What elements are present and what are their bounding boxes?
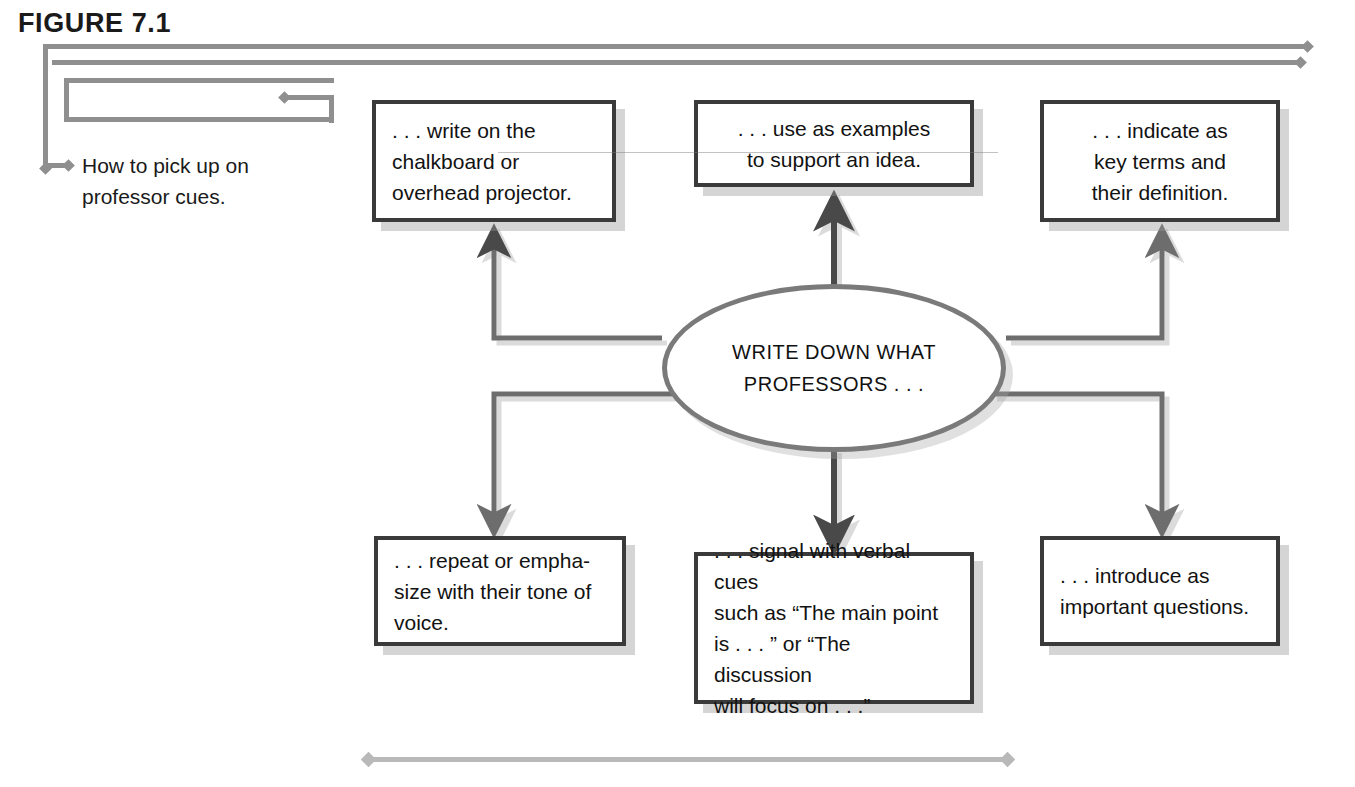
- figure-page: FIGURE 7.1 How to pick up on professor c…: [0, 0, 1355, 787]
- hub-line-1: WRITE DOWN WHAT: [732, 341, 936, 363]
- scan-artifact-line: [498, 152, 998, 153]
- node-tone-line-1: . . . repeat or empha-: [394, 549, 590, 572]
- bottom-rule: [368, 757, 1008, 762]
- node-examples-text: . . . use as examples to support an idea…: [698, 113, 970, 175]
- connector-hub-to-keyterms: [1006, 232, 1162, 338]
- connector-hub-to-questions: [992, 394, 1162, 530]
- node-verbalcues: . . . signal with verbal cues such as “T…: [694, 552, 974, 704]
- node-examples-line-1: . . . use as examples: [738, 117, 931, 140]
- node-tone-text: . . . repeat or empha- size with their t…: [378, 545, 622, 638]
- node-keyterms-line-2: key terms and: [1094, 150, 1226, 173]
- node-verbalcues-line-3: is . . . ” or “The discussion: [714, 632, 851, 686]
- node-questions-text: . . . introduce as important questions.: [1044, 560, 1276, 622]
- node-chalkboard-text: . . . write on the chalkboard or overhea…: [376, 115, 612, 208]
- node-examples: . . . use as examples to support an idea…: [694, 100, 974, 187]
- connector-hub-to-chalkboard: [494, 232, 662, 338]
- node-tone: . . . repeat or empha- size with their t…: [374, 536, 626, 646]
- connector-hub-to-tone: [494, 394, 680, 530]
- node-keyterms-text: . . . indicate as key terms and their de…: [1044, 115, 1276, 208]
- node-verbalcues-line-4: will focus on . . .”: [714, 694, 870, 717]
- node-questions: . . . introduce as important questions.: [1040, 536, 1280, 646]
- node-tone-line-3: voice.: [394, 611, 449, 634]
- hub-text: WRITE DOWN WHAT PROFESSORS . . .: [732, 336, 936, 400]
- hub-ellipse: WRITE DOWN WHAT PROFESSORS . . .: [662, 284, 1006, 452]
- node-chalkboard-line-3: overhead projector.: [392, 181, 572, 204]
- node-verbalcues-line-1: . . . signal with verbal cues: [714, 539, 910, 593]
- node-verbalcues-line-2: such as “The main point: [714, 601, 938, 624]
- hub-line-2: PROFESSORS . . .: [744, 373, 924, 395]
- node-questions-line-1: . . . introduce as: [1060, 564, 1209, 587]
- node-chalkboard: . . . write on the chalkboard or overhea…: [372, 100, 616, 222]
- node-tone-line-2: size with their tone of: [394, 580, 591, 603]
- node-keyterms: . . . indicate as key terms and their de…: [1040, 100, 1280, 222]
- node-keyterms-line-1: . . . indicate as: [1092, 119, 1227, 142]
- node-verbalcues-text: . . . signal with verbal cues such as “T…: [698, 535, 970, 721]
- node-keyterms-line-3: their definition.: [1092, 181, 1229, 204]
- node-examples-line-2: to support an idea.: [747, 148, 921, 171]
- node-chalkboard-line-1: . . . write on the: [392, 119, 536, 142]
- node-questions-line-2: important questions.: [1060, 595, 1249, 618]
